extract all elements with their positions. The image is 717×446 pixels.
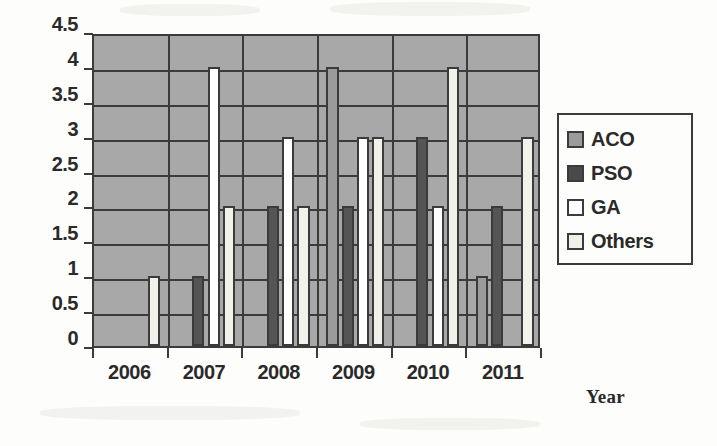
y-tick-label: 4.5 <box>16 14 78 34</box>
legend-item-pso[interactable]: PSO <box>567 156 683 190</box>
bar-pso-2011 <box>491 206 503 346</box>
plot-wrapper <box>92 34 540 348</box>
gridline-horizontal <box>94 244 538 246</box>
x-tick-mark <box>92 348 94 358</box>
x-tick-label: 2011 <box>482 362 523 382</box>
legend-item-aco[interactable]: ACO <box>567 122 683 156</box>
bar-pso-2009 <box>342 206 354 346</box>
paper-smudge <box>330 2 530 16</box>
legend-item-others[interactable]: Others <box>567 224 683 258</box>
legend-label: ACO <box>591 129 635 149</box>
y-tick-label: 1 <box>16 258 78 278</box>
bar-aco-2009 <box>326 67 338 346</box>
y-tick-label: 0.5 <box>16 293 78 313</box>
x-tick-mark <box>540 348 542 358</box>
chart-legend: ACOPSOGAOthers <box>557 113 693 265</box>
bar-ga-2008 <box>282 137 294 346</box>
x-tick-label: 2009 <box>332 362 375 382</box>
plot-area <box>92 34 540 348</box>
x-tick-label: 2007 <box>183 362 226 382</box>
legend-swatch-icon <box>567 131 584 148</box>
bar-ga-2010 <box>432 206 444 346</box>
legend-label: GA <box>591 197 620 217</box>
y-tick-label: 1.5 <box>16 223 78 243</box>
gridline-vertical <box>168 36 170 346</box>
gridline-horizontal <box>94 314 538 316</box>
y-tick-label: 2 <box>16 188 78 208</box>
gridline-horizontal <box>94 70 538 72</box>
paper-smudge <box>360 418 540 430</box>
x-tick-label: 2006 <box>108 362 151 382</box>
y-axis-labels: 4.543.532.521.510.50 <box>16 24 78 348</box>
legend-swatch-icon <box>567 199 584 216</box>
bar-pso-2007 <box>192 276 204 346</box>
x-tick-label: 2008 <box>257 362 300 382</box>
legend-label: PSO <box>591 163 632 183</box>
x-axis-title: Year <box>586 386 625 408</box>
y-tick-label: 0 <box>16 328 78 348</box>
bar-others-2007 <box>223 206 235 346</box>
paper-smudge <box>120 4 260 16</box>
gridline-vertical <box>392 36 394 346</box>
x-tick-mark <box>316 348 318 358</box>
x-tick-mark <box>391 348 393 358</box>
x-tick-mark <box>465 348 467 358</box>
y-tick-label: 2.5 <box>16 154 78 174</box>
x-tick-mark <box>241 348 243 358</box>
x-axis-labels: 200620072008200920102011 <box>92 362 540 392</box>
gridline-horizontal <box>94 140 538 142</box>
bar-ga-2007 <box>208 67 220 346</box>
y-tick-label: 3.5 <box>16 84 78 104</box>
bar-pso-2010 <box>416 137 428 346</box>
bar-pso-2008 <box>267 206 279 346</box>
bar-ga-2009 <box>357 137 369 346</box>
paper-smudge <box>40 406 300 420</box>
bar-others-2008 <box>297 206 309 346</box>
legend-swatch-icon <box>567 233 584 250</box>
legend-label: Others <box>591 231 654 251</box>
bar-others-2010 <box>447 67 459 346</box>
y-tick-label: 3 <box>16 119 78 139</box>
y-tick-label: 4 <box>16 49 78 69</box>
bar-others-2006 <box>148 276 160 346</box>
gridline-horizontal <box>94 175 538 177</box>
gridline-horizontal <box>94 105 538 107</box>
gridline-vertical <box>242 36 244 346</box>
bar-aco-2011 <box>476 276 488 346</box>
gridline-horizontal <box>94 209 538 211</box>
x-tick-label: 2010 <box>407 362 450 382</box>
legend-item-ga[interactable]: GA <box>567 190 683 224</box>
gridline-vertical <box>466 36 468 346</box>
legend-swatch-icon <box>567 165 584 182</box>
gridline-vertical <box>317 36 319 346</box>
bar-others-2009 <box>372 137 384 346</box>
bar-others-2011 <box>521 137 533 346</box>
gridline-horizontal <box>94 279 538 281</box>
x-tick-mark <box>167 348 169 358</box>
chart-page: 4.543.532.521.510.50 2006200720082009201… <box>0 0 717 446</box>
